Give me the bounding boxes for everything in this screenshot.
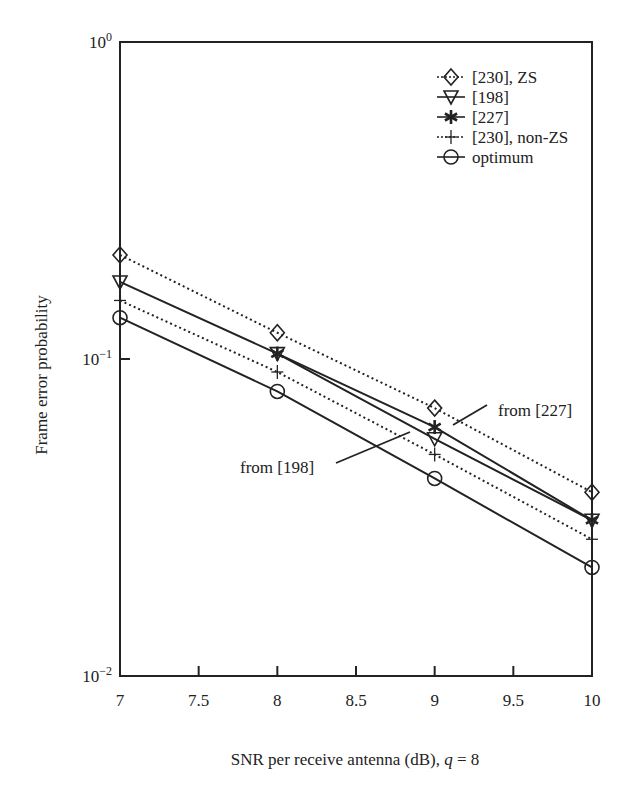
x-axis-label-var: q: [444, 750, 453, 769]
x-tick-label: 7: [116, 691, 125, 710]
y-tick-label: 100: [89, 30, 112, 52]
x-tick-label: 8.5: [345, 691, 366, 710]
x-axis-label-prefix: SNR per receive antenna (dB),: [231, 750, 444, 769]
x-tick-label: 8: [273, 691, 282, 710]
series-line: [120, 318, 592, 568]
series-optimum: [113, 311, 599, 575]
x-tick-label: 7.5: [188, 691, 209, 710]
legend-label: optimum: [472, 148, 533, 167]
y-axis-label: Frame error probability: [32, 295, 52, 455]
legend-label: [230], non-ZS: [472, 128, 568, 147]
x-tick-label: 9: [430, 691, 439, 710]
annotation-label: from [198]: [240, 458, 314, 477]
annotations: from [227]from [198]: [240, 401, 572, 477]
series-230-zs: [113, 247, 599, 500]
legend-label: [198]: [472, 88, 509, 107]
series-line: [120, 255, 592, 492]
series-227: [271, 347, 598, 528]
diamond-marker: [428, 400, 442, 416]
chart-canvas: 77.588.599.51010010−110−2 from [227]from…: [0, 0, 625, 803]
y-tick-label: 10−2: [82, 664, 112, 686]
legend: [230], ZS[198][227][230], non-ZSoptimum: [437, 68, 568, 167]
x-tick-label: 10: [584, 691, 601, 710]
x-axis-label: SNR per receive antenna (dB), q = 8: [231, 750, 479, 770]
annotation-label: from [227]: [498, 401, 572, 420]
x-axis-label-suffix: = 8: [453, 750, 480, 769]
legend-label: [227]: [472, 108, 509, 127]
annotation-pointer: [453, 405, 487, 425]
legend-label: [230], ZS: [472, 68, 537, 87]
x-tick-label: 9.5: [503, 691, 524, 710]
y-tick-label: 10−1: [82, 347, 112, 369]
